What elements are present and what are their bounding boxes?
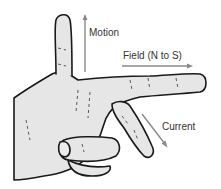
motion-label: Motion xyxy=(89,28,119,38)
current-label: Current xyxy=(162,122,195,132)
field-arrowhead-icon xyxy=(187,64,193,69)
field-label: Field (N to S) xyxy=(123,51,182,61)
left-hand-rule-diagram: Motion Field (N to S) Current xyxy=(0,0,221,189)
hand xyxy=(14,15,206,180)
motion-arrowhead-icon xyxy=(83,14,88,20)
